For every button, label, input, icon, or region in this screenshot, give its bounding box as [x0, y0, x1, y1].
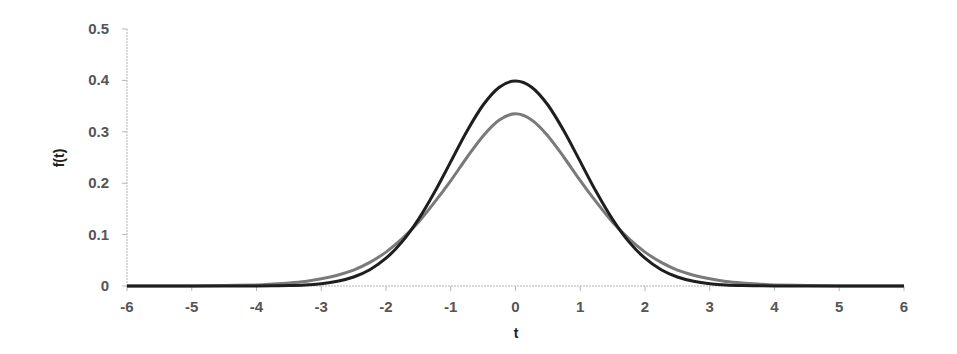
y-tick-label: 0.2: [88, 174, 109, 191]
x-tick-label: -3: [315, 298, 328, 315]
x-tick-label: 3: [706, 298, 714, 315]
x-tick-label: -1: [444, 298, 457, 315]
y-tick-label: 0.5: [88, 20, 109, 37]
y-axis: 00.10.20.30.40.5: [88, 20, 127, 294]
y-tick-label: 0.3: [88, 123, 109, 140]
x-tick-label: 2: [641, 298, 649, 315]
x-tick-label: 1: [576, 298, 584, 315]
x-axis: -6-5-4-3-2-10123456: [120, 286, 908, 315]
normal-curve: [127, 81, 904, 286]
y-tick-label: 0: [101, 277, 109, 294]
x-tick-label: -6: [120, 298, 133, 315]
x-tick-label: -5: [185, 298, 198, 315]
x-tick-label: 0: [511, 298, 519, 315]
y-tick-label: 0.4: [88, 71, 110, 88]
x-tick-label: -2: [379, 298, 392, 315]
y-tick-label: 0.1: [88, 226, 109, 243]
x-tick-label: -4: [250, 298, 264, 315]
x-tick-label: 6: [900, 298, 908, 315]
y-axis-title: f(t): [51, 149, 67, 168]
t-distribution-curve: [127, 114, 904, 286]
x-axis-title: t: [514, 325, 519, 341]
chart: 00.10.20.30.40.5 -6-5-4-3-2-10123456 f(t…: [0, 0, 957, 354]
x-tick-label: 5: [835, 298, 843, 315]
x-tick-label: 4: [770, 298, 779, 315]
series-layer: [127, 81, 904, 286]
